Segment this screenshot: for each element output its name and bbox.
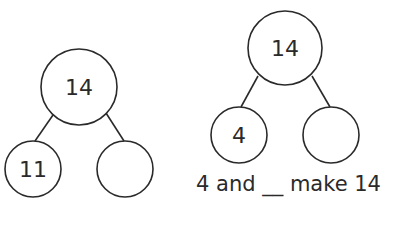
part-value-1: 11	[19, 157, 47, 182]
whole-value: 14	[271, 36, 299, 61]
part-value-1: 4	[232, 123, 246, 148]
connector-line-right	[312, 76, 330, 107]
connector-line-left	[35, 115, 53, 141]
part-circle-2[interactable]	[303, 107, 359, 163]
whole-value: 14	[65, 75, 93, 100]
number-sentence: 4 and __ make 14	[196, 172, 392, 196]
connector-line-left	[241, 76, 258, 107]
part-circle-2[interactable]	[97, 141, 153, 197]
connector-line-right	[106, 113, 124, 141]
